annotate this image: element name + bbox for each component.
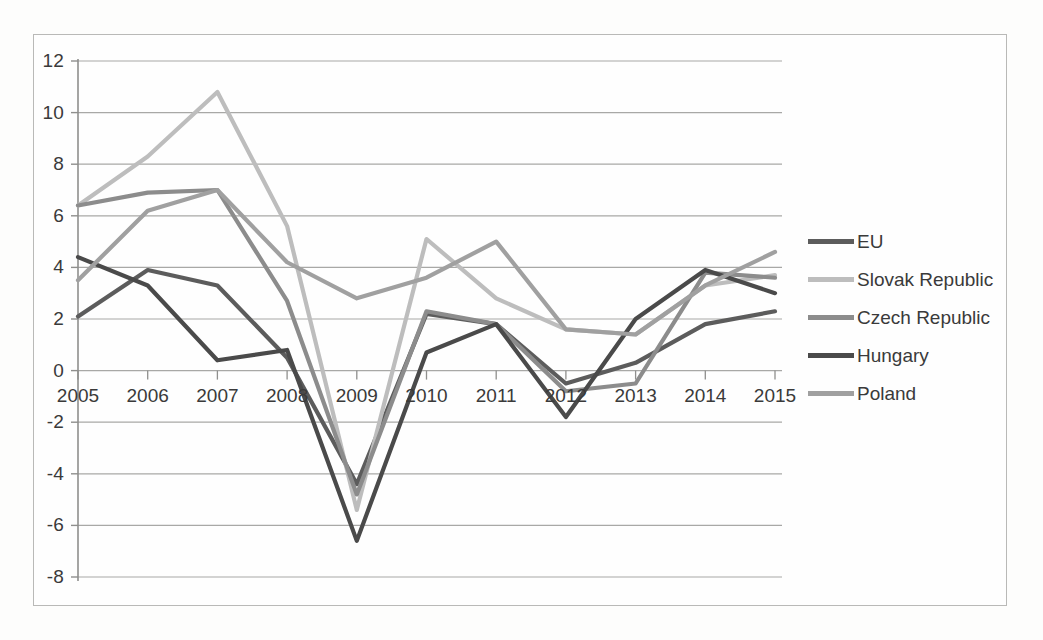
legend-label: Slovak Republic <box>857 270 993 289</box>
x-tick-label: 2008 <box>255 386 319 405</box>
legend-swatch-icon <box>808 239 854 244</box>
y-tick-label: -6 <box>18 515 64 534</box>
y-tick-label: 6 <box>18 206 64 225</box>
x-tick-label: 2007 <box>185 386 249 405</box>
legend-item[interactable]: EU <box>808 222 1018 260</box>
x-tick-label: 2012 <box>534 386 598 405</box>
legend-label: Czech Republic <box>857 308 990 327</box>
legend-item[interactable]: Czech Republic <box>808 298 1018 336</box>
legend-swatch-icon <box>808 277 854 282</box>
chart-root: 121086420-2-4-6-8 2005200620072008200920… <box>0 0 1043 640</box>
legend-label: Hungary <box>857 346 929 365</box>
legend-label: Poland <box>857 384 916 403</box>
x-tick-label: 2009 <box>325 386 389 405</box>
y-tick-label: -8 <box>18 567 64 586</box>
legend-swatch-icon <box>808 391 854 396</box>
y-tick-label: 12 <box>18 51 64 70</box>
chart-legend: EUSlovak RepublicCzech RepublicHungaryPo… <box>808 222 1018 412</box>
x-tick-label: 2013 <box>604 386 668 405</box>
series-line-slovak-republic <box>78 92 775 510</box>
x-tick-label: 2006 <box>116 386 180 405</box>
y-tick-label: 0 <box>18 361 64 380</box>
y-tick-label: -4 <box>18 464 64 483</box>
y-tick-label: 10 <box>18 103 64 122</box>
legend-item[interactable]: Hungary <box>808 336 1018 374</box>
x-tick-label: 2011 <box>464 386 528 405</box>
x-tick-label: 2015 <box>743 386 807 405</box>
x-tick-label: 2010 <box>395 386 459 405</box>
series-line-eu <box>78 270 775 484</box>
x-tick-label: 2005 <box>46 386 110 405</box>
y-tick-label: 2 <box>18 309 64 328</box>
y-tick-label: 4 <box>18 257 64 276</box>
x-tick-label: 2014 <box>673 386 737 405</box>
y-tick-label: 8 <box>18 154 64 173</box>
legend-label: EU <box>857 232 883 251</box>
legend-item[interactable]: Slovak Republic <box>808 260 1018 298</box>
legend-item[interactable]: Poland <box>808 374 1018 412</box>
y-tick-label: -2 <box>18 412 64 431</box>
legend-swatch-icon <box>808 353 854 358</box>
legend-swatch-icon <box>808 315 854 320</box>
